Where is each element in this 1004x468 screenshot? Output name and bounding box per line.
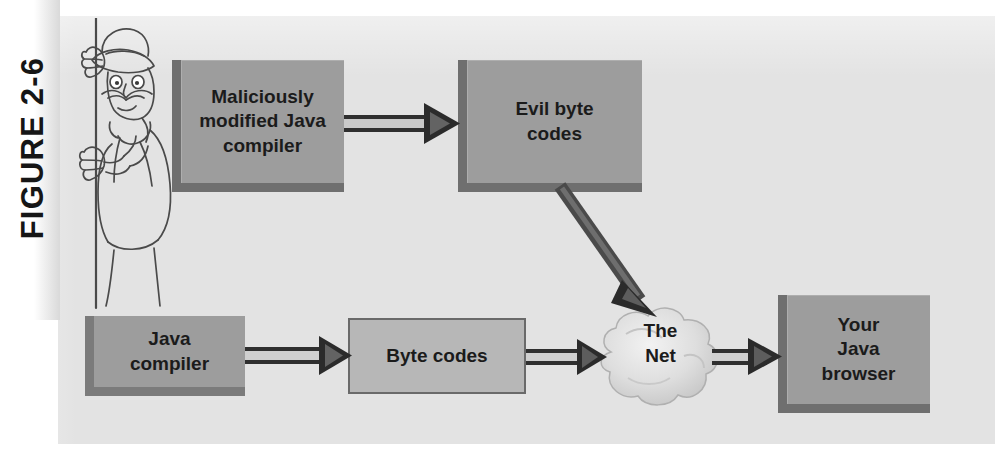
right-margin	[995, 0, 1004, 468]
top-margin	[0, 0, 1004, 16]
sneaky-spy-cartoon-icon	[62, 18, 194, 318]
figure-scan: Maliciouslymodified Javacompiler Evil by…	[0, 0, 1004, 468]
figure-number-label: FIGURE 2-6	[13, 53, 53, 243]
bottom-left-margin	[0, 320, 58, 468]
node-byte-codes[interactable]: Byte codes	[348, 318, 526, 394]
node-label: Maliciouslymodified Javacompiler	[193, 85, 332, 158]
node-label: YourJavabrowser	[816, 313, 902, 386]
node-label: Evil bytecodes	[509, 97, 599, 146]
bottom-margin	[0, 444, 1004, 468]
node-label: Javacompiler	[124, 327, 215, 376]
node-label: Byte codes	[380, 344, 493, 368]
node-java-compiler[interactable]: Javacompiler	[85, 316, 245, 396]
node-your-java-browser[interactable]: YourJavabrowser	[778, 295, 930, 413]
node-the-net[interactable]: TheNet	[588, 300, 733, 412]
node-evil-byte-codes[interactable]: Evil bytecodes	[458, 60, 642, 192]
node-malicious-compiler[interactable]: Maliciouslymodified Javacompiler	[172, 60, 344, 192]
node-label: TheNet	[588, 318, 733, 368]
